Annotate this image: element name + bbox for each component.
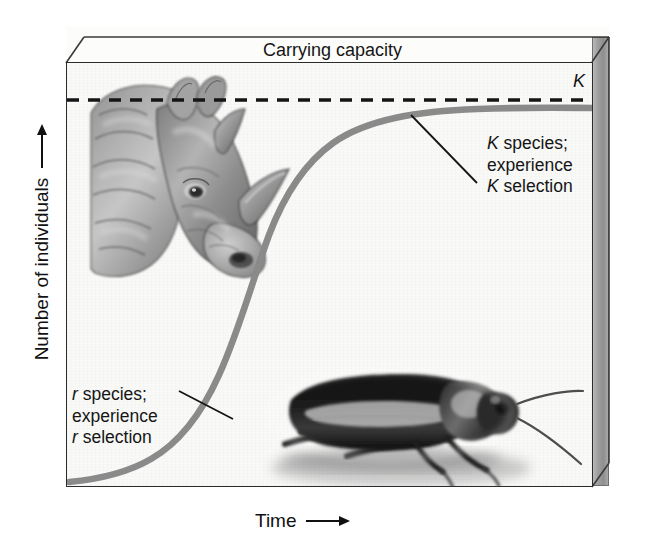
arrow-right-icon bbox=[306, 515, 352, 527]
k-value-label: K bbox=[573, 71, 585, 91]
k-species-leader-line bbox=[411, 115, 477, 183]
carrying-capacity-label: Carrying capacity bbox=[263, 40, 402, 60]
k-italic-1: K bbox=[487, 133, 499, 153]
r-rest-1: species; bbox=[78, 384, 147, 404]
r-species-line-1: r species; bbox=[72, 384, 158, 406]
k-species-line-2: experience bbox=[487, 155, 573, 177]
k-rest-1: species; bbox=[499, 133, 568, 153]
r-rest-3: selection bbox=[78, 427, 152, 447]
r-species-line-2: experience bbox=[72, 406, 158, 428]
k-italic-3: K bbox=[487, 176, 499, 196]
r-species-line-3: r selection bbox=[72, 427, 158, 449]
figure-canvas: Carrying capacity K K species; experienc… bbox=[0, 0, 650, 542]
k-species-line-1: K species; bbox=[487, 133, 573, 155]
r-species-annotation: r species; experience r selection bbox=[72, 384, 158, 449]
k-species-line-3: K selection bbox=[487, 176, 573, 198]
x-axis-title-text: Time bbox=[255, 510, 297, 532]
k-rest-3: selection bbox=[499, 176, 573, 196]
arrow-up-icon bbox=[36, 122, 48, 168]
k-species-annotation: K species; experience K selection bbox=[487, 133, 573, 198]
x-axis-title: Time bbox=[255, 510, 352, 532]
y-axis-title-text: Number of individuals bbox=[31, 178, 53, 361]
y-axis-title: Number of individuals bbox=[31, 81, 53, 401]
